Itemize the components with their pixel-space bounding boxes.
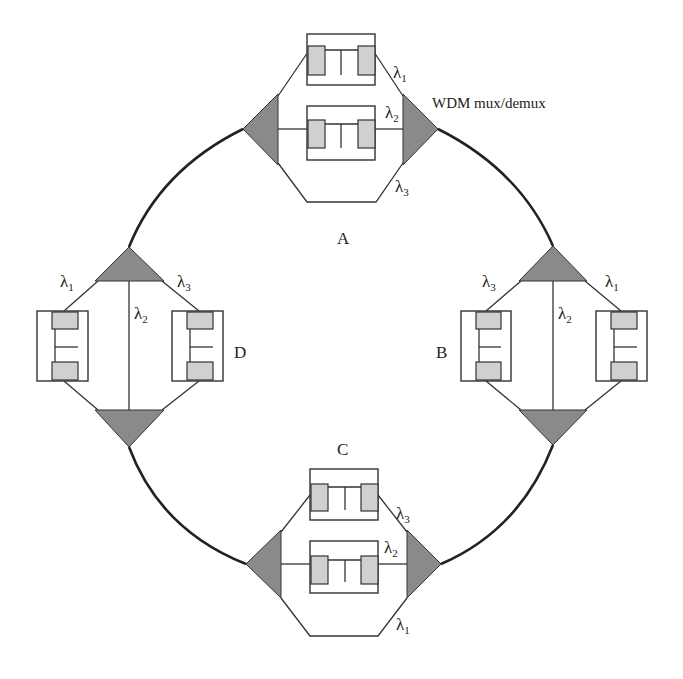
add-drop-filter-a-lambda2 [307,106,375,160]
wdm-mux-demux-label: WDM mux/demux [432,95,546,111]
node-c: λ3 λ2 λ1 C [246,440,441,636]
ring-arc-a-b [438,129,553,246]
wdm-mux-b-top [519,246,587,281]
wdm-mux-d-bottom [95,410,164,447]
lambda-label-c-3: λ3 [396,504,410,525]
lambda-label-d-3: λ3 [177,272,191,293]
node-label-d: D [234,343,246,362]
add-drop-filter-b-lambda3 [461,311,511,381]
ring-arc-b-c [441,445,553,564]
lambda-label-b-2: λ2 [558,304,572,325]
add-drop-filter-d-lambda1 [37,311,88,381]
wdm-ring-diagram: λ1 λ2 λ3 WDM mux/demux A λ1 λ2 λ3 [0,0,683,679]
lambda-label-a-1: λ1 [393,63,407,84]
wdm-mux-d-top [95,247,164,281]
node-label-b: B [436,343,447,362]
add-drop-filter-b-lambda1 [596,311,647,381]
add-drop-filter-c-lambda2 [310,541,378,593]
wdm-mux-c-right [407,530,441,598]
node-a: λ1 λ2 λ3 WDM mux/demux A [243,34,546,248]
lambda-label-c-2: λ2 [384,538,398,559]
lambda-label-b-3: λ3 [482,272,496,293]
node-label-a: A [337,229,350,248]
wdm-mux-c-left [246,530,281,598]
node-b: λ3 λ2 λ1 B [436,246,647,445]
wdm-mux-a-left [243,94,278,165]
lambda-label-a-3: λ3 [395,177,409,198]
node-d: λ1 λ2 λ3 D [37,247,246,447]
lambda-label-d-2: λ2 [134,304,148,325]
lambda-label-b-1: λ1 [605,272,619,293]
ring-arc-d-c [129,447,246,564]
ring-arc-a-d [129,129,243,247]
node-label-c: C [337,440,348,459]
lambda-label-a-2: λ2 [385,103,399,124]
wdm-mux-b-bottom [519,410,587,445]
add-drop-filter-c-lambda3 [310,469,378,520]
lambda-label-c-1: λ1 [396,615,410,636]
add-drop-filter-d-lambda3 [172,311,223,381]
lambda-label-d-1: λ1 [60,272,74,293]
add-drop-filter-a-lambda1 [307,34,375,85]
